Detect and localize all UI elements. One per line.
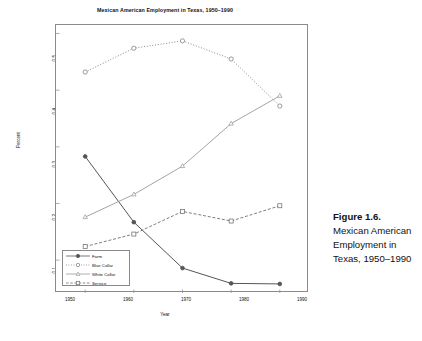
figure-caption-number: Figure 1.6. — [333, 211, 381, 222]
x-tick-1970: 1970 — [171, 297, 201, 302]
chart-legend: Farm Blue Collar White Collar — [62, 250, 130, 286]
figure-caption: Figure 1.6. Mexican American Employment … — [333, 210, 419, 266]
legend-item-farm: Farm — [63, 252, 129, 260]
x-tick-1980: 1980 — [229, 297, 259, 302]
legend-item-service: Service — [63, 279, 129, 287]
legend-label-blue-collar: Blue Collar — [92, 262, 113, 269]
figure-caption-text: Mexican American Employment in Texas, 19… — [333, 225, 411, 264]
x-tick-1950: 1950 — [55, 297, 85, 302]
chart-title: Mexican American Employment in Texas, 19… — [0, 7, 330, 13]
legend-symbol-blue-collar — [65, 261, 91, 269]
legend-item-white-collar: White Collar — [63, 270, 129, 278]
x-tick-1960: 1960 — [113, 297, 143, 302]
chart-panel: Mexican American Employment in Texas, 19… — [0, 0, 330, 341]
legend-symbol-service — [65, 279, 91, 287]
legend-label-farm: Farm — [92, 253, 102, 260]
x-tick-1990: 1990 — [287, 297, 317, 302]
legend-symbol-white-collar — [65, 270, 91, 278]
legend-symbol-farm — [65, 252, 91, 260]
x-axis-label: Year — [0, 312, 330, 317]
y-axis-label: Percent — [16, 132, 21, 148]
legend-item-blue-collar: Blue Collar — [63, 261, 129, 269]
legend-label-service: Service — [92, 280, 106, 287]
figure-root: Mexican American Employment in Texas, 19… — [0, 0, 422, 341]
legend-label-white-collar: White Collar — [92, 271, 115, 278]
